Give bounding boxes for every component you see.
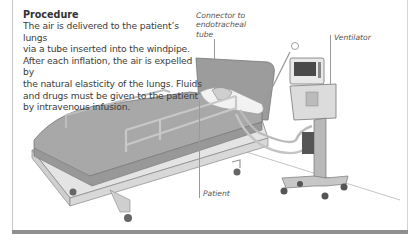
connector-label-line: tube (196, 30, 246, 39)
procedure-line: After each inflation, the air is expelle… (23, 55, 203, 78)
procedure-heading: Procedure (23, 9, 203, 20)
stand-wheel (297, 181, 303, 187)
patient-label: Patient (203, 189, 230, 198)
bed-wheel (234, 169, 241, 176)
procedure-line: via a tube inserted into the windpipe. (23, 43, 203, 55)
stand-wheel (341, 184, 348, 191)
procedure-line: by intravenous infusion. (23, 101, 203, 113)
humidifier (302, 132, 314, 154)
ventilator-leader-line (330, 35, 331, 85)
connector-leader-line (214, 39, 215, 89)
ventilator-base (282, 176, 348, 188)
connector-label-line: endotracheal (196, 20, 246, 29)
bed-wheel (124, 214, 132, 222)
ventilator-stand (314, 118, 326, 180)
procedure-line: and drugs must be given to the patient (23, 90, 203, 102)
connector-label: Connector to endotracheal tube (196, 11, 246, 39)
procedure-line: The air is delivered to the patient’s lu… (23, 20, 203, 43)
stand-wheel (322, 193, 329, 200)
patient-leader-line (199, 100, 200, 198)
connector-label-line: Connector to (196, 11, 246, 20)
ventilator-label: Ventilator (334, 33, 371, 42)
procedure-line: the natural elasticity of the lungs. Flu… (23, 78, 203, 90)
bed-wheel (70, 189, 77, 196)
stand-wheel (281, 188, 288, 195)
procedure-text-block: Procedure The air is delivered to the pa… (23, 9, 203, 113)
